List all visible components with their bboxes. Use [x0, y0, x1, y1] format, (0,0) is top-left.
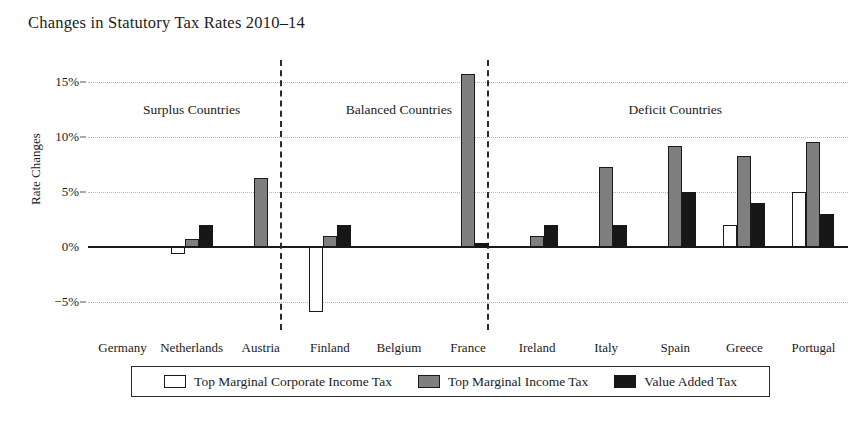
x-axis-label: France — [450, 340, 485, 356]
y-tick-mark — [80, 82, 86, 83]
bar — [530, 236, 544, 247]
plot-area: −5%0%5%10%15%Surplus CountriesBalanced C… — [88, 60, 848, 330]
bar — [199, 225, 213, 247]
y-tick-label: 10% — [55, 129, 79, 145]
x-axis-label: Greece — [726, 340, 763, 356]
chart-legend: Top Marginal Corporate Income Tax Top Ma… — [131, 366, 770, 397]
bar — [682, 192, 696, 247]
bar — [544, 225, 558, 247]
y-tick-mark — [80, 192, 86, 193]
bar — [309, 247, 323, 312]
x-axis-label: Austria — [242, 340, 280, 356]
y-tick-mark — [80, 137, 86, 138]
x-axis-label: Ireland — [519, 340, 556, 356]
x-axis-label: Belgium — [377, 340, 422, 356]
legend-swatch-icon — [418, 375, 440, 388]
bar — [668, 146, 682, 247]
y-tick-label: −5% — [54, 294, 79, 310]
bar — [185, 239, 199, 247]
chart-title: Changes in Statutory Tax Rates 2010–14 — [28, 13, 305, 33]
bar — [820, 214, 834, 247]
bar — [171, 247, 185, 254]
bar — [323, 236, 337, 247]
x-axis-label: Italy — [594, 340, 618, 356]
bar — [613, 225, 627, 247]
legend-swatch-icon — [164, 375, 186, 388]
bar — [792, 192, 806, 247]
y-tick-label: 0% — [62, 239, 79, 255]
bar — [806, 142, 820, 248]
x-axis-label: Netherlands — [160, 340, 223, 356]
gridline — [88, 302, 848, 304]
y-tick-mark — [80, 302, 86, 303]
group-label: Surplus Countries — [143, 102, 240, 118]
y-tick-label: 15% — [55, 74, 79, 90]
bar — [475, 243, 489, 247]
bar — [599, 167, 613, 247]
bar — [254, 178, 268, 247]
bar — [337, 225, 351, 247]
bar — [737, 156, 751, 247]
bar — [723, 225, 737, 247]
legend-item[interactable]: Top Marginal Corporate Income Tax — [164, 374, 392, 390]
y-tick-label: 5% — [62, 184, 79, 200]
x-axis-label: Germany — [98, 340, 146, 356]
x-axis-label: Spain — [660, 340, 690, 356]
group-label: Deficit Countries — [629, 102, 722, 118]
legend-item[interactable]: Value Added Tax — [614, 374, 737, 390]
group-divider — [487, 60, 489, 330]
legend-label: Top Marginal Corporate Income Tax — [194, 374, 392, 390]
x-axis-label: Portugal — [791, 340, 835, 356]
legend-swatch-icon — [614, 375, 636, 388]
legend-label: Top Marginal Income Tax — [448, 374, 588, 390]
x-axis-label: Finland — [310, 340, 350, 356]
chart-container: Changes in Statutory Tax Rates 2010–14 R… — [0, 0, 866, 427]
legend-item[interactable]: Top Marginal Income Tax — [418, 374, 588, 390]
legend-label: Value Added Tax — [644, 374, 737, 390]
y-axis-title: Rate Changes — [28, 133, 44, 205]
group-divider — [280, 60, 282, 330]
bar — [751, 203, 765, 247]
group-label: Balanced Countries — [346, 102, 452, 118]
bar — [461, 74, 475, 247]
